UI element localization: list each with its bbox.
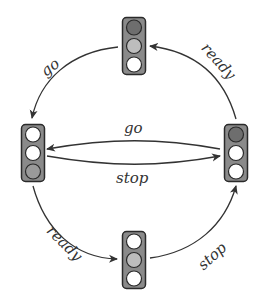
edge-left-to-right xyxy=(47,156,220,164)
traffic-light-right xyxy=(225,125,248,182)
edges xyxy=(32,46,236,259)
label-left-to-bottom: ready xyxy=(43,222,87,266)
lamp-green-icon xyxy=(26,164,41,179)
edge-right-to-left xyxy=(47,141,220,149)
traffic-light-state-diagram: go ready go stop ready stop xyxy=(0,0,266,302)
lamp-yellow-icon xyxy=(229,146,244,161)
label-right-to-left: go xyxy=(124,119,143,137)
label-right-to-top: ready xyxy=(197,39,240,83)
lamp-yellow-icon xyxy=(26,146,41,161)
lamp-red-icon xyxy=(229,127,244,142)
label-bottom-to-right: stop xyxy=(194,238,230,273)
traffic-light-left xyxy=(22,125,45,182)
edge-top-to-left xyxy=(32,47,118,118)
lamp-yellow-icon xyxy=(127,39,142,54)
lamp-yellow-icon xyxy=(127,253,142,268)
lamp-red-icon xyxy=(26,127,41,142)
lamp-green-icon xyxy=(127,271,142,286)
lamp-green-icon xyxy=(229,164,244,179)
traffic-light-bottom xyxy=(123,232,146,289)
lamp-green-icon xyxy=(127,57,142,72)
lamp-red-icon xyxy=(127,20,142,35)
lamp-red-icon xyxy=(127,234,142,249)
traffic-light-top xyxy=(123,18,146,75)
label-left-to-right: stop xyxy=(116,169,149,187)
label-top-to-left: go xyxy=(37,54,63,80)
